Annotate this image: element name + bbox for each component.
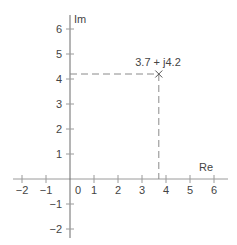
re-axis-label: Re xyxy=(199,161,213,173)
x-tick-label: 0 xyxy=(75,184,81,196)
y-tick-label: 1 xyxy=(56,148,62,160)
y-tick-label: −1 xyxy=(49,198,62,210)
x-tick-label: −2 xyxy=(16,184,29,196)
y-tick-label: 3 xyxy=(56,98,62,110)
axes xyxy=(13,15,228,238)
x-tick-label: 1 xyxy=(91,184,97,196)
y-tick-label: −2 xyxy=(49,223,62,235)
im-axis-label: Im xyxy=(74,13,86,25)
x-tick-label: 6 xyxy=(211,184,217,196)
x-tick-label: 5 xyxy=(187,184,193,196)
labels: Im Re 3.7 + j4.2 −2−10123456−2−1123456 xyxy=(16,13,217,235)
y-tick-label: 2 xyxy=(56,123,62,135)
y-tick-label: 4 xyxy=(56,73,62,85)
x-tick-label: −1 xyxy=(40,184,53,196)
y-tick-label: 5 xyxy=(56,48,62,60)
point-label: 3.7 + j4.2 xyxy=(135,56,181,68)
x-tick-label: 3 xyxy=(139,184,145,196)
x-tick-label: 2 xyxy=(115,184,121,196)
projection-guides xyxy=(70,74,159,179)
x-tick-label: 4 xyxy=(163,184,169,196)
complex-plane-diagram: Im Re 3.7 + j4.2 −2−10123456−2−1123456 xyxy=(0,0,237,245)
y-tick-label: 6 xyxy=(56,23,62,35)
